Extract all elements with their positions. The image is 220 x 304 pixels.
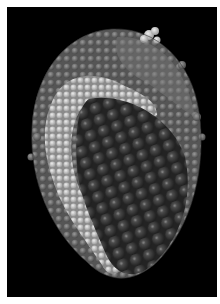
molecular-render	[7, 7, 217, 297]
molecular-render-frame	[7, 7, 217, 297]
